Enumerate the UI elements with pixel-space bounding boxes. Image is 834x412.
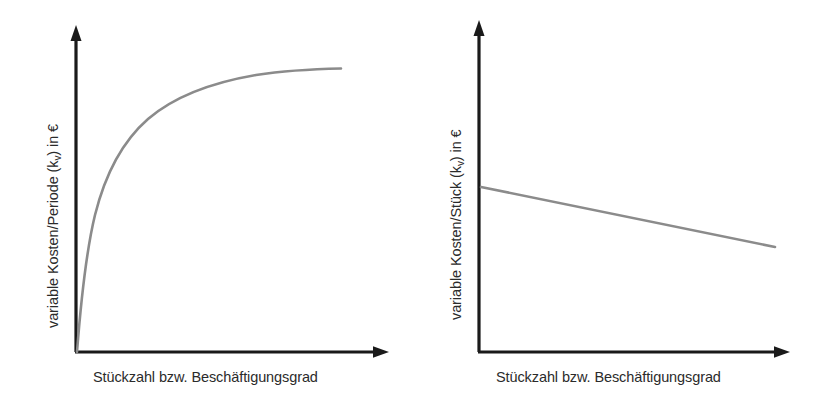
curve-variable-costs-per-period: [77, 69, 341, 353]
y-axis-label-suffix: ) in €: [45, 124, 61, 156]
y-axis-arrow-icon: [71, 25, 82, 41]
chart-variable-costs-per-unit: variable Kosten/Stück (kv) in € Stückzah…: [417, 0, 834, 412]
y-axis-label-suffix: ) in €: [448, 129, 464, 161]
x-axis-label: Stückzahl bzw. Beschäftigungsgrad: [496, 369, 721, 385]
y-axis-label: variable Kosten/Periode (kv) in €: [45, 124, 63, 328]
y-axis-label: variable Kosten/Stück (kv) in €: [448, 129, 466, 320]
chart-variable-costs-per-period: variable Kosten/Periode (kv) in € Stückz…: [0, 0, 417, 412]
y-axis-label-prefix: variable Kosten/Stück (k: [448, 165, 464, 320]
x-axis-arrow-icon: [373, 346, 389, 358]
x-axis-arrow-icon: [774, 346, 790, 358]
chart-left-svg: variable Kosten/Periode (kv) in € Stückz…: [0, 0, 417, 412]
y-axis-label-prefix: variable Kosten/Periode (k: [45, 160, 61, 328]
y-axis-arrow-icon: [474, 20, 485, 36]
figure-container: variable Kosten/Periode (kv) in € Stückz…: [0, 0, 834, 412]
x-axis-label: Stückzahl bzw. Beschäftigungsgrad: [93, 369, 318, 385]
chart-right-svg: variable Kosten/Stück (kv) in € Stückzah…: [417, 0, 834, 412]
curve-variable-costs-per-unit: [481, 187, 775, 247]
